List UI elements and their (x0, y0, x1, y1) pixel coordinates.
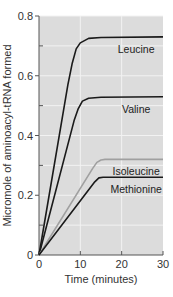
y-tick-label: 0.8 (18, 10, 33, 22)
y-tick-label: 0.6 (18, 70, 33, 82)
y-tick-label: 0.2 (18, 189, 33, 201)
chart: 00.20.40.60.80102030 LeucineValineIsoleu… (0, 0, 173, 297)
x-tick-label: 30 (157, 258, 169, 270)
x-tick-label: 10 (74, 258, 86, 270)
y-tick-label: 0.4 (18, 130, 33, 142)
x-tick-label: 0 (36, 258, 42, 270)
x-tick-label: 20 (116, 258, 128, 270)
series-label-leucine: Leucine (118, 43, 155, 55)
series-label-isoleucine: Isoleucine (112, 165, 159, 177)
y-axis-label: Micromole of aminoacyl-tRNA formed (1, 44, 13, 226)
y-tick-label: 0 (27, 249, 33, 261)
series-label-valine: Valine (122, 103, 151, 115)
x-axis-label: Time (minutes) (65, 273, 138, 285)
series-label-methionine: Methionine (110, 183, 162, 195)
